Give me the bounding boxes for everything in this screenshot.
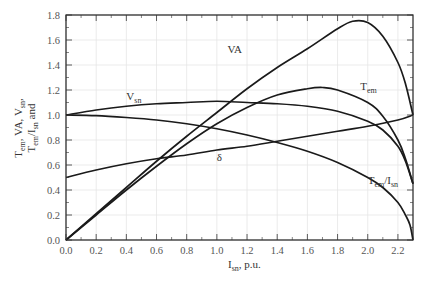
y-tick-label: 1.0: [47, 110, 60, 121]
y-tick-label: 0.0: [47, 235, 60, 246]
curve-vsn: [66, 101, 413, 184]
y-tick-label: 1.6: [47, 35, 60, 46]
y-tick-label: 1.4: [47, 60, 61, 71]
curve-annotation: VA: [227, 43, 242, 55]
x-tick-label: 1.8: [331, 245, 344, 256]
curve-annotation: δ: [217, 151, 222, 163]
y-tick-label: 0.8: [47, 135, 60, 146]
y-tick-label: 0.6: [47, 160, 60, 171]
curve-annotation: Tem: [360, 80, 377, 95]
x-tick-label: 1.4: [271, 245, 285, 256]
x-tick-label: 1.2: [240, 245, 253, 256]
x-tick-label: 0.4: [120, 245, 134, 256]
x-tick-label: 2.2: [391, 245, 404, 256]
x-tick-label: 0.6: [150, 245, 163, 256]
x-tick-label: 0.2: [90, 245, 103, 256]
y-axis-label: Tem, VA, Vsn, Tem/Isn and: [12, 98, 40, 158]
line-chart: 0.00.20.40.60.81.01.21.41.61.82.02.20.00…: [0, 0, 425, 281]
y-tick-label: 1.2: [47, 85, 60, 96]
x-tick-label: 2.0: [361, 245, 374, 256]
curve-labels: VATemVsnδTem/Isn: [126, 43, 398, 189]
x-tick-label: 0.0: [59, 245, 72, 256]
y-tick-label: 0.4: [47, 185, 61, 196]
curve-tenisn: [66, 115, 413, 240]
y-tick-label: 0.2: [47, 210, 60, 221]
x-axis-label: Isn, p.u.: [228, 258, 261, 273]
curve-annotation: Tem/Isn: [368, 174, 398, 189]
x-tick-label: 0.8: [180, 245, 193, 256]
x-tick-label: 1.0: [210, 245, 223, 256]
curve-ten: [66, 87, 413, 240]
curve-: [66, 115, 413, 178]
curve-annotation: Vsn: [126, 90, 141, 105]
x-tick-label: 1.6: [301, 245, 314, 256]
y-tick-label: 1.8: [47, 10, 60, 21]
svg-text:Tem/Isn and: Tem/Isn and: [25, 103, 40, 153]
